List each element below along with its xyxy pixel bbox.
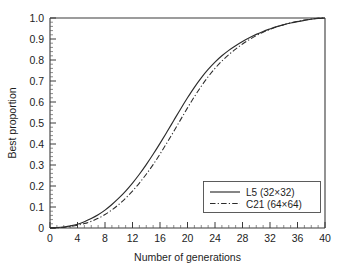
x-tick-label: 4 bbox=[75, 232, 81, 244]
x-tick-label: 20 bbox=[182, 232, 194, 244]
y-tick-label: 0.3 bbox=[29, 159, 44, 171]
x-tick-label: 32 bbox=[264, 232, 276, 244]
x-axis-tick-labels: 0481216202428323640 bbox=[47, 232, 331, 244]
x-tick-label: 0 bbox=[47, 232, 53, 244]
chart-figure: 0481216202428323640 00.10.20.30.40.50.60… bbox=[0, 0, 349, 272]
y-tick-label: 0.9 bbox=[29, 33, 44, 45]
y-tick-label: 0.1 bbox=[29, 201, 44, 213]
legend-label-c21: C21 (64×64) bbox=[246, 199, 302, 210]
x-axis-title: Number of generations bbox=[134, 251, 241, 263]
line-chart: 0481216202428323640 00.10.20.30.40.50.60… bbox=[0, 0, 349, 272]
y-tick-label: 0.7 bbox=[29, 75, 44, 87]
x-tick-label: 24 bbox=[209, 232, 221, 244]
y-axis-title: Best proportion bbox=[6, 87, 18, 158]
x-tick-label: 12 bbox=[127, 232, 139, 244]
x-tick-label: 8 bbox=[102, 232, 108, 244]
x-tick-label: 28 bbox=[237, 232, 249, 244]
legend-label-l5: L5 (32×32) bbox=[246, 187, 295, 198]
x-tick-label: 36 bbox=[292, 232, 304, 244]
y-tick-label: 0.6 bbox=[29, 96, 44, 108]
y-tick-label: 0.5 bbox=[29, 117, 44, 129]
y-tick-label: 0.4 bbox=[29, 138, 44, 150]
y-tick-label: 0.2 bbox=[29, 180, 44, 192]
y-tick-label: 0 bbox=[38, 222, 44, 234]
y-tick-label: 1.0 bbox=[29, 12, 44, 24]
chart-legend: L5 (32×32) C21 (64×64) bbox=[204, 182, 321, 213]
x-tick-label: 40 bbox=[319, 232, 331, 244]
y-axis-tick-labels: 00.10.20.30.40.50.60.70.80.91.0 bbox=[29, 12, 44, 234]
x-tick-label: 16 bbox=[154, 232, 166, 244]
y-tick-label: 0.8 bbox=[29, 54, 44, 66]
